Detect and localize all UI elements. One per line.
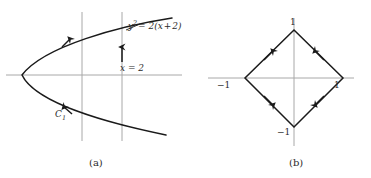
vertical-line-label: x = 2: [120, 64, 144, 73]
panel-b-caption: (b): [289, 158, 303, 168]
lower-right-edge-arrow: [315, 96, 324, 105]
panel-b: 1 −1 −1 1 (b): [186, 0, 371, 178]
parabola-equation-label: y2 = 2(x + 2): [128, 20, 181, 31]
right-vertex-label: 1: [334, 81, 340, 90]
upper-right-edge-arrow: [315, 51, 324, 60]
curve-name-subscript: 1: [62, 114, 66, 122]
left-vertex-label: −1: [217, 81, 230, 90]
parabola-curve: [22, 18, 172, 135]
figure-container: y2 = 2(x + 2) x = 2 C1 (a): [0, 0, 371, 178]
panel-a: y2 = 2(x + 2) x = 2 C1 (a): [0, 0, 186, 178]
curve-name-letter: C: [55, 109, 62, 119]
curve-name-label: C1: [55, 110, 66, 121]
equation-rhs: = 2(x + 2): [137, 21, 181, 31]
upper-left-edge-arrow: [264, 51, 273, 60]
top-vertex-label: 1: [290, 18, 296, 27]
panel-b-graphic: [186, 0, 371, 178]
bottom-vertex-label: −1: [277, 128, 290, 137]
lower-left-edge-arrow: [264, 96, 273, 105]
panel-a-caption: (a): [89, 158, 103, 168]
